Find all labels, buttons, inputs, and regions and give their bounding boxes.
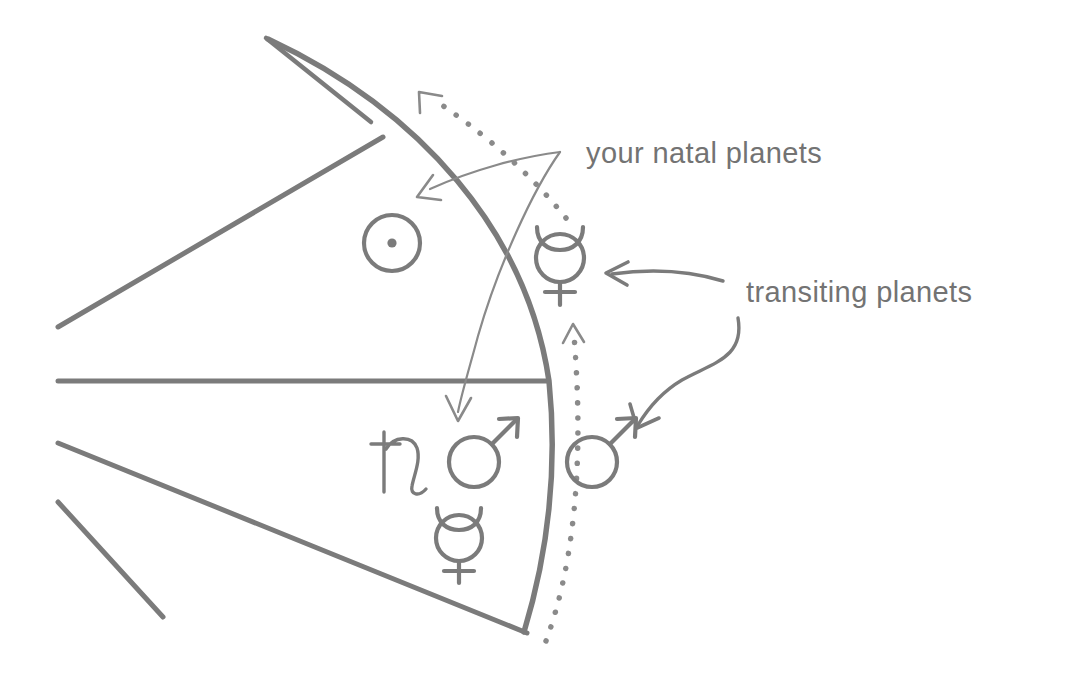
natal-leader-to-saturn-mars bbox=[458, 152, 560, 412]
transit-label-leaders bbox=[606, 262, 739, 428]
natal-planet-glyphs bbox=[364, 215, 518, 583]
natal-leader-sun-arrow-icon bbox=[417, 175, 441, 200]
mercury-icon-natal bbox=[436, 508, 482, 583]
saturn-icon bbox=[371, 432, 426, 494]
transit-leader-to-mars bbox=[638, 318, 739, 425]
mercury-icon-transit bbox=[536, 227, 584, 305]
wedge-spoke-upper bbox=[58, 137, 383, 327]
dotted-arc-upper-arrow-icon bbox=[419, 92, 442, 113]
dotted-arc-upper bbox=[436, 101, 566, 218]
wedge-spoke-lower bbox=[58, 443, 527, 633]
natal-planets-label: your natal planets bbox=[586, 137, 822, 169]
astrology-transit-diagram: your natal planets transiting planets bbox=[0, 0, 1066, 679]
wedge-spoke-outer-short bbox=[58, 502, 163, 617]
mars-icon-natal bbox=[449, 418, 518, 487]
transit-path-group bbox=[419, 92, 584, 641]
transit-leader-to-mercury bbox=[612, 271, 723, 281]
transiting-planets-label: transiting planets bbox=[746, 276, 972, 308]
diagram-canvas: your natal planets transiting planets bbox=[0, 0, 1066, 679]
house-cusp-tick bbox=[266, 38, 371, 122]
sun-icon bbox=[364, 215, 420, 271]
